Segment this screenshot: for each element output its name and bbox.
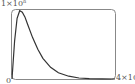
plot-frame	[12, 10, 116, 80]
plot-area	[0, 0, 135, 84]
data-curve	[12, 11, 115, 79]
